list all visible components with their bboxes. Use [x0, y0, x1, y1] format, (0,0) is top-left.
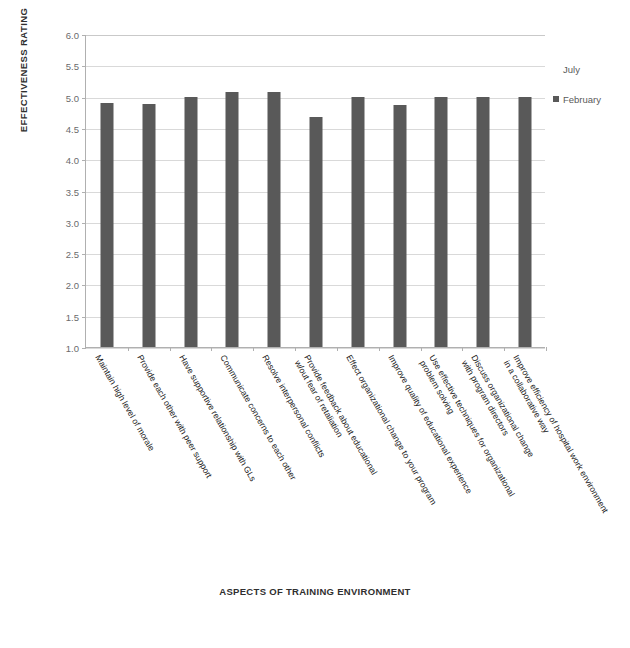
y-tick-label: 1.5 [39, 311, 79, 322]
y-tick-label: 5.0 [39, 92, 79, 103]
bar-february[interactable] [351, 97, 364, 347]
y-tick-label: 5.5 [39, 61, 79, 72]
bar-group[interactable] [295, 35, 337, 347]
bar-february[interactable] [519, 97, 532, 347]
bar-group[interactable] [211, 35, 253, 347]
bar-february[interactable] [309, 117, 322, 347]
bar-february[interactable] [435, 97, 448, 347]
y-tick-label: 6.0 [39, 30, 79, 41]
y-tick-label: 3.5 [39, 186, 79, 197]
bar-group[interactable] [170, 35, 212, 347]
plot-area: 6.05.55.04.54.03.53.02.52.01.51.0 [85, 35, 545, 348]
bar-group[interactable] [504, 35, 546, 347]
y-tick-label: 2.5 [39, 249, 79, 260]
bar-february[interactable] [226, 92, 239, 347]
bar-group[interactable] [462, 35, 504, 347]
x-category-label-line1: Provide each other with peer support [135, 353, 214, 480]
x-category-label: Provide each other with peer support [135, 353, 214, 480]
x-axis-title: ASPECTS OF TRAINING ENVIRONMENT [0, 586, 630, 597]
bar-february[interactable] [268, 92, 281, 347]
y-tick-label: 4.0 [39, 155, 79, 166]
legend-item[interactable]: February [553, 92, 628, 106]
bar-group[interactable] [253, 35, 295, 347]
bar-chart: EFFECTIVENESS RATING 6.05.55.04.54.03.53… [0, 0, 630, 648]
bar-group[interactable] [128, 35, 170, 347]
bar-group[interactable] [86, 35, 128, 347]
bar-february[interactable] [184, 97, 197, 347]
y-tick-label: 2.0 [39, 280, 79, 291]
x-axis-category-labels: Maintain high level of moraleProvide eac… [85, 349, 630, 589]
legend-label: February [563, 94, 601, 105]
legend-label: July [563, 64, 580, 75]
bar-group[interactable] [379, 35, 421, 347]
bar-february[interactable] [142, 104, 155, 348]
y-tick-label: 4.5 [39, 123, 79, 134]
x-category-label-line1: Communicate concerns to each other [219, 353, 299, 482]
bar-group[interactable] [337, 35, 379, 347]
bar-february[interactable] [100, 103, 113, 347]
x-category-label-line1: Provide feedback about educational [302, 353, 379, 476]
y-tick-label: 1.0 [39, 343, 79, 354]
x-category-label: Have supportive relationship with GLs [176, 353, 257, 483]
bar-group[interactable] [421, 35, 463, 347]
bar-february[interactable] [477, 97, 490, 347]
y-axis-title: EFFECTIVENESS RATING [14, 0, 34, 140]
x-category-label-line1: Improve efficiency of hospital work envi… [511, 353, 610, 515]
bars-layer [86, 35, 545, 347]
x-category-label: Communicate concerns to each other [218, 353, 299, 482]
bar-february[interactable] [393, 105, 406, 347]
y-tick-label: 3.0 [39, 217, 79, 228]
legend: JulyFebruary [553, 62, 628, 122]
legend-swatch [553, 96, 559, 102]
legend-item[interactable]: July [553, 62, 628, 76]
x-category-label-line1: Have supportive relationship with GLs [177, 353, 258, 483]
